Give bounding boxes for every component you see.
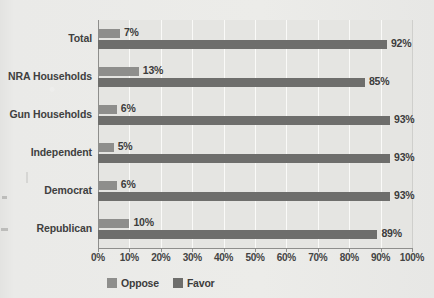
bar-value-label: 6%	[121, 178, 136, 190]
bar-value-label: 10%	[133, 216, 153, 228]
bar-favor	[98, 154, 390, 163]
x-axis-tick-label: 80%	[340, 252, 359, 263]
bar-oppose	[98, 181, 117, 190]
x-axis-tick-label: 100%	[400, 252, 424, 263]
category-label: Independent	[0, 146, 92, 158]
legend-item-favor: Favor	[173, 277, 215, 289]
gridline	[412, 20, 413, 248]
bar-value-label: 93%	[394, 113, 414, 125]
gridline	[98, 20, 99, 248]
legend-label-oppose: Oppose	[121, 277, 159, 289]
gridline	[161, 20, 162, 248]
chart-legend: Oppose Favor	[107, 277, 222, 289]
bar-value-label: 93%	[394, 189, 414, 201]
bar-value-label: 92%	[391, 37, 411, 49]
category-label: NRA Households	[0, 70, 92, 82]
gridline	[286, 20, 287, 248]
bar-favor	[98, 230, 377, 239]
x-axis-tick-label: 40%	[214, 252, 233, 263]
bar-value-label: 89%	[381, 227, 401, 239]
legend-item-oppose: Oppose	[107, 277, 159, 289]
bar-oppose	[98, 67, 139, 76]
bar-oppose	[98, 29, 120, 38]
gridline	[381, 20, 382, 248]
gridline	[255, 20, 256, 248]
bar-value-label: 6%	[121, 102, 136, 114]
x-axis-tick-label: 10%	[120, 252, 139, 263]
gridline	[129, 20, 130, 248]
bar-value-label: 13%	[143, 64, 163, 76]
x-axis-tick-label: 20%	[151, 252, 170, 263]
gridline	[192, 20, 193, 248]
plot-area	[98, 20, 412, 248]
category-label: Total	[0, 32, 92, 44]
bar-oppose	[98, 143, 114, 152]
bar-value-label: 7%	[124, 26, 139, 38]
bar-value-label: 5%	[118, 140, 133, 152]
bar-value-label: 93%	[394, 151, 414, 163]
legend-label-favor: Favor	[187, 277, 215, 289]
x-axis-tick-label: 90%	[371, 252, 390, 263]
bar-favor	[98, 78, 365, 87]
x-axis-tick-label: 70%	[308, 252, 327, 263]
grouped-bar-chart: 0%10%20%30%40%50%60%70%80%90%100%Total7%…	[0, 0, 434, 298]
favor-swatch-icon	[173, 278, 183, 288]
x-axis-tick-label: 60%	[277, 252, 296, 263]
category-label: Democrat	[0, 184, 92, 196]
bar-value-label: 85%	[369, 75, 389, 87]
bar-oppose	[98, 219, 129, 228]
gridline	[349, 20, 350, 248]
gridline	[318, 20, 319, 248]
x-axis-tick-label: 30%	[183, 252, 202, 263]
bar-favor	[98, 192, 390, 201]
bar-favor	[98, 40, 387, 49]
category-label: Republican	[0, 222, 92, 234]
x-axis-tick-label: 50%	[245, 252, 264, 263]
oppose-swatch-icon	[107, 278, 117, 288]
x-axis-tick-label: 0%	[91, 252, 105, 263]
bar-oppose	[98, 105, 117, 114]
category-label: Gun Households	[0, 108, 92, 120]
bar-favor	[98, 116, 390, 125]
gridline	[224, 20, 225, 248]
